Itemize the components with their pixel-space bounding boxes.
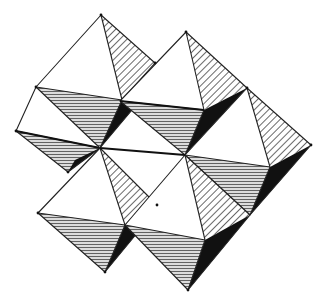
diagram-canvas: Corner-sharing octahedra framework (poly… (0, 0, 325, 295)
octahedra-framework-diagram (0, 0, 325, 295)
